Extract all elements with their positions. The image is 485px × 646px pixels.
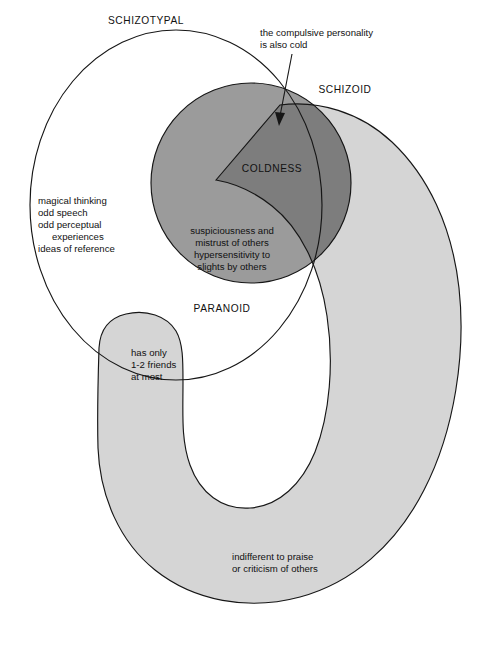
callout-line-2: is also cold [260,39,307,50]
schizoid-indifferent-line-1: indifferent to praise [232,551,313,562]
paranoid-feature-3: hypersensitivity to [194,249,270,260]
schizotypal-feature-5: ideas of reference [38,243,115,254]
schizotypal-feature-1: magical thinking [38,195,107,206]
schizoid-friends-line-3: at most [131,371,163,382]
label-paranoid: PARANOID [194,303,251,314]
schizotypal-feature-3: odd perceptual [38,219,101,230]
callout-line-1: the compulsive personality [260,27,373,38]
schizoid-friends-line-2: 1-2 friends [131,359,177,370]
schizotypal-feature-4: experiences [52,231,104,242]
schizotypal-feature-2: odd speech [38,207,88,218]
label-schizoid: SCHIZOID [318,84,371,95]
paranoid-feature-2: mistrust of others [195,237,269,248]
venn-diagram-canvas: SCHIZOTYPAL SCHIZOID PARANOID COLDNESS t… [0,0,485,646]
label-schizotypal: SCHIZOTYPAL [108,15,184,26]
paranoid-feature-4: slights by others [197,261,267,272]
personality-overlap-diagram: SCHIZOTYPAL SCHIZOID PARANOID COLDNESS t… [0,0,485,646]
paranoid-feature-1: suspiciousness and [190,225,274,236]
schizoid-indifferent-line-2: or criticism of others [232,563,318,574]
schizoid-friends-line-1: has only [131,347,167,358]
label-coldness: COLDNESS [242,163,302,174]
